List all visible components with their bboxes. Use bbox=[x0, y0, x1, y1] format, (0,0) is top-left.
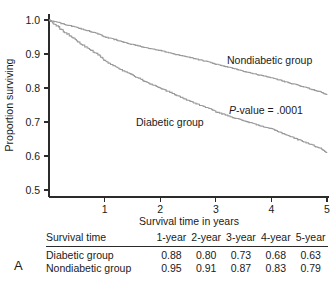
table-header-survival-time: Survival time bbox=[46, 231, 154, 247]
y-axis-title: Proportion surviving bbox=[3, 58, 15, 151]
p-value-body: -value = .0001 bbox=[236, 104, 303, 116]
table-cell-diabetic-5-year: 0.63 bbox=[293, 247, 328, 263]
x-axis-title: Survival time in years bbox=[139, 215, 239, 227]
survival-plot-svg: 0.50.60.70.80.91.0 12345 Survival time i… bbox=[0, 0, 336, 232]
y-tick-label: 0.9 bbox=[25, 48, 40, 60]
panel-letter: A bbox=[14, 258, 23, 273]
x-axis-tick-labels: 12345 bbox=[102, 203, 330, 215]
p-value-symbol: P bbox=[229, 104, 236, 116]
table-row-label-nondiabetic: Nondiabetic group bbox=[46, 262, 154, 275]
x-axis-ticks bbox=[105, 197, 327, 202]
table-cell-diabetic-2-year: 0.80 bbox=[189, 247, 224, 263]
survival-rates-table: Survival time 1-year 2-year 3-year 4-yea… bbox=[46, 231, 328, 275]
survival-figure: 0.50.60.70.80.91.0 12345 Survival time i… bbox=[0, 0, 336, 293]
kaplan-meier-chart: 0.50.60.70.80.91.0 12345 Survival time i… bbox=[0, 0, 336, 232]
table-cell-diabetic-1-year: 0.88 bbox=[154, 247, 189, 263]
table-cell-nondiabetic-3-year: 0.87 bbox=[224, 262, 259, 275]
table-cell-nondiabetic-4-year: 0.83 bbox=[258, 262, 293, 275]
x-tick-label: 2 bbox=[157, 203, 163, 215]
table-header-4-year: 4-year bbox=[258, 231, 293, 247]
y-tick-label: 1.0 bbox=[25, 14, 40, 26]
table-header-2-year: 2-year bbox=[189, 231, 224, 247]
series-label-diabetic: Diabetic group bbox=[136, 116, 204, 128]
y-tick-label: 0.8 bbox=[25, 82, 40, 94]
y-tick-label: 0.6 bbox=[25, 150, 40, 162]
table-header-1-year: 1-year bbox=[154, 231, 189, 247]
table-cell-nondiabetic-1-year: 0.95 bbox=[154, 262, 189, 275]
table-cell-diabetic-3-year: 0.73 bbox=[224, 247, 259, 263]
y-axis-ticks bbox=[44, 20, 49, 190]
table-cell-nondiabetic-5-year: 0.79 bbox=[293, 262, 328, 275]
table-row: Nondiabetic group 0.95 0.91 0.87 0.83 0.… bbox=[46, 262, 328, 275]
table-cell-nondiabetic-2-year: 0.91 bbox=[189, 262, 224, 275]
curve-diabetic-group bbox=[49, 20, 327, 153]
x-tick-label: 4 bbox=[268, 203, 274, 215]
y-axis-tick-labels: 0.50.60.70.80.91.0 bbox=[25, 14, 40, 196]
table-row: Diabetic group 0.88 0.80 0.73 0.68 0.63 bbox=[46, 247, 328, 263]
table-cell-diabetic-4-year: 0.68 bbox=[258, 247, 293, 263]
x-tick-label: 3 bbox=[213, 203, 219, 215]
table-row-label-diabetic: Diabetic group bbox=[46, 247, 154, 263]
x-tick-label: 5 bbox=[324, 203, 330, 215]
p-value-annotation: P-value = .0001 bbox=[229, 104, 303, 116]
table-header-row: Survival time 1-year 2-year 3-year 4-yea… bbox=[46, 231, 328, 247]
y-tick-label: 0.5 bbox=[25, 184, 40, 196]
table-header-3-year: 3-year bbox=[224, 231, 259, 247]
y-tick-label: 0.7 bbox=[25, 116, 40, 128]
table-header-5-year: 5-year bbox=[293, 231, 328, 247]
series-label-nondiabetic: Nondiabetic group bbox=[227, 54, 312, 66]
x-tick-label: 1 bbox=[102, 203, 108, 215]
